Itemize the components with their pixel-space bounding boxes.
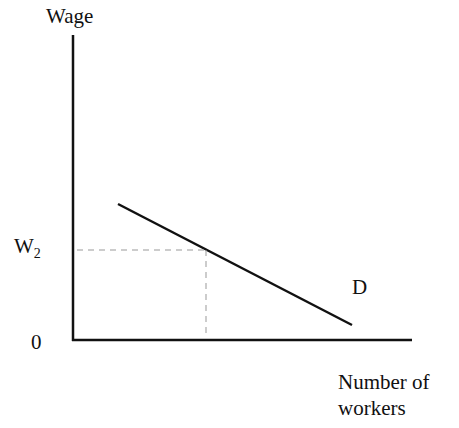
curve-label: D [352,277,367,298]
x-axis-label-line2: workers [338,398,406,419]
demand-curve [118,204,352,325]
x-axis-label-line1: Number of [338,372,430,393]
wage-level-letter: W [14,234,34,258]
wage-level-subscript: 2 [34,246,41,261]
diagram-canvas [0,0,459,428]
origin-label: 0 [31,332,42,353]
wage-level-label: W2 [14,236,41,261]
y-axis-label: Wage [46,6,93,27]
labor-demand-diagram: Wage W2 0 D Number of workers [0,0,459,428]
